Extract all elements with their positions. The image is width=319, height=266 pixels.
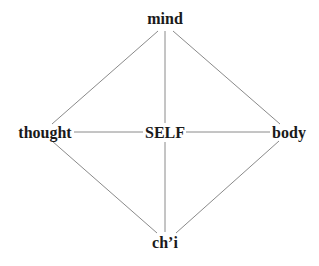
edge-mind-body (173, 31, 280, 124)
node-body: body (272, 124, 306, 142)
edge-thought-chi (52, 141, 157, 233)
edge-mind-thought (52, 31, 158, 124)
node-chi: ch’i (152, 234, 178, 252)
node-mind: mind (147, 10, 183, 28)
edge-body-chi (176, 141, 279, 233)
node-self: SELF (145, 124, 185, 142)
node-thought: thought (18, 124, 71, 142)
